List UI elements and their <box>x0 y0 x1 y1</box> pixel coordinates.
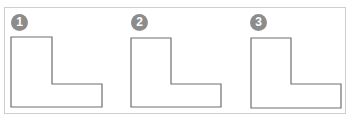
l-shape-1 <box>11 37 102 107</box>
panel-number-badge-3: 3 <box>250 14 267 31</box>
l-shape-3 <box>251 38 341 108</box>
l-shape-2 <box>131 38 221 107</box>
panel-number-badge-1: 1 <box>11 14 28 31</box>
l-shapes-diagram <box>0 0 350 120</box>
panel-number-badge-2: 2 <box>131 14 148 31</box>
